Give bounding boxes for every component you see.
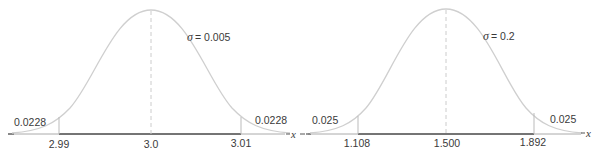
right-chart: σ = 0.2 0.025 0.025 1.108 1.500 1.892 x <box>306 9 591 149</box>
right-tick-mid: 1.500 <box>434 137 460 149</box>
figure: σ = 0.005 0.0228 0.0228 2.99 3.0 3.01 x … <box>0 0 612 156</box>
left-sigma-value: = 0.005 <box>195 31 230 43</box>
right-tick-high: 1.892 <box>520 136 546 148</box>
right-tick-low: 1.108 <box>344 137 370 149</box>
left-chart: σ = 0.005 0.0228 0.0228 2.99 3.0 3.01 x <box>8 10 305 150</box>
right-sigma-symbol: σ <box>483 29 490 43</box>
left-upper-tail-label: 0.0228 <box>255 114 287 126</box>
left-axis-label: x <box>290 128 296 140</box>
left-lower-tail-label: 0.0228 <box>14 116 46 128</box>
left-tick-high: 3.01 <box>231 137 252 149</box>
right-lower-tail-label: 0.025 <box>312 114 338 126</box>
right-upper-tail-label: 0.025 <box>550 113 576 125</box>
left-sigma-symbol: σ <box>187 30 194 44</box>
left-tick-mid: 3.0 <box>144 138 159 150</box>
left-tick-low: 2.99 <box>49 138 70 150</box>
right-axis-label: x <box>585 127 591 139</box>
right-sigma-value: = 0.2 <box>491 30 515 42</box>
